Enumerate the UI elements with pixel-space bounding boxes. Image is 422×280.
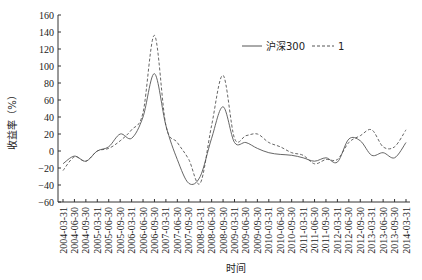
x-tick-label: 2013-03-31	[366, 207, 377, 254]
y-axis: −60−40−20020406080100120140160	[38, 10, 61, 208]
x-tick-label: 2008-03-31	[195, 207, 206, 254]
x-tick-label: 2012-03-31	[332, 207, 343, 254]
y-tick-label: 120	[39, 44, 54, 55]
y-tick-label: −20	[38, 163, 54, 174]
y-tick-label: 0	[49, 146, 54, 157]
x-tick-label: 2009-03-31	[229, 207, 240, 254]
y-tick-label: 80	[44, 78, 54, 89]
legend: 沪深300 1	[242, 40, 344, 52]
legend-label-hs300: 沪深300	[266, 40, 305, 52]
x-tick-label: 2006-09-30	[149, 207, 160, 254]
x-tick-label: 2012-09-30	[355, 207, 366, 254]
x-tick-label: 2010-06-30	[275, 207, 286, 254]
x-tick-label: 2011-03-31	[298, 207, 309, 253]
x-tick-label: 2005-03-31	[92, 207, 103, 254]
x-tick-label: 2006-03-31	[126, 207, 137, 254]
y-tick-label: 20	[44, 129, 54, 140]
y-tick-label: −60	[38, 197, 54, 208]
x-tick-label: 2010-09-30	[286, 207, 297, 254]
y-tick-label: 60	[44, 95, 54, 106]
x-axis-title: 时间	[226, 262, 246, 274]
x-tick-label: 2013-06-30	[378, 207, 389, 254]
y-axis-title: 收益率（%）	[6, 90, 18, 150]
y-tick-label: 100	[39, 61, 54, 72]
x-tick-label: 2006-06-30	[138, 207, 149, 254]
x-tick-label: 2009-06-30	[240, 207, 251, 254]
x-tick-label: 2007-03-31	[160, 207, 171, 254]
y-tick-label: −40	[38, 180, 54, 191]
x-tick-label: 2005-06-30	[103, 207, 114, 254]
x-tick-label: 2007-09-30	[183, 207, 194, 254]
x-tick-label: 2004-09-30	[80, 207, 91, 254]
x-tick-label: 2012-06-30	[343, 207, 354, 254]
series-lines	[63, 35, 406, 184]
line-chart: −60−40−20020406080100120140160 2004-03-3…	[0, 0, 422, 280]
x-tick-label: 2009-09-30	[252, 207, 263, 254]
x-tick-label: 2011-06-30	[309, 207, 320, 253]
series-line-hs300	[63, 74, 406, 185]
x-tick-label: 2008-06-30	[206, 207, 217, 254]
y-tick-label: 40	[44, 112, 54, 123]
x-tick-label: 2011-09-30	[320, 207, 331, 253]
x-tick-label: 2008-09-30	[218, 207, 229, 254]
x-tick-label: 2005-09-30	[115, 207, 126, 254]
x-axis: 2004-03-312004-06-302004-09-302005-03-31…	[58, 199, 412, 254]
x-tick-label: 2007-06-30	[172, 207, 183, 254]
series-line-1	[63, 35, 406, 184]
x-tick-label: 2004-06-30	[69, 207, 80, 254]
y-tick-label: 160	[39, 10, 54, 21]
legend-label-1: 1	[338, 41, 344, 52]
x-tick-label: 2013-09-30	[389, 207, 400, 254]
x-tick-label: 2010-03-31	[263, 207, 274, 254]
x-tick-label: 2004-03-31	[58, 207, 69, 254]
x-tick-label: 2014-03-31	[401, 207, 412, 254]
y-tick-label: 140	[39, 27, 54, 38]
